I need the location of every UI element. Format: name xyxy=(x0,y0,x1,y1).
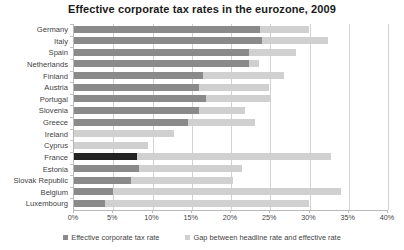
y-axis-label-estonia: Estonia xyxy=(0,164,68,176)
x-axis-label-30: 30% xyxy=(294,213,324,222)
bar-row xyxy=(74,140,388,152)
bar-gap-netherlands xyxy=(249,60,259,67)
bar-effective-slovenia xyxy=(74,107,199,114)
bar-row xyxy=(74,105,388,117)
y-axis-label-ireland: Ireland xyxy=(0,129,68,141)
bar-effective-belgium xyxy=(74,188,113,195)
x-axis-tick xyxy=(152,210,153,213)
plot-area xyxy=(73,24,388,210)
x-axis-tick xyxy=(191,210,192,213)
bar-effective-luxembourg xyxy=(74,200,105,207)
bar-effective-austria xyxy=(74,84,199,91)
bar-effective-france xyxy=(74,153,137,160)
x-axis-tick xyxy=(387,210,388,213)
bar-gap-ireland xyxy=(74,130,174,137)
gridline-40 xyxy=(388,24,389,210)
bar-row xyxy=(74,175,388,187)
y-axis-label-netherlands: Netherlands xyxy=(0,59,68,71)
bar-gap-slovak-republic xyxy=(131,177,233,184)
bar-row xyxy=(74,71,388,83)
bar-row xyxy=(74,24,388,36)
legend-swatch-icon xyxy=(63,235,68,240)
x-axis-tick xyxy=(348,210,349,213)
y-axis-label-cyprus: Cyprus xyxy=(0,140,68,152)
bar-gap-greece xyxy=(188,119,255,126)
bar-gap-spain xyxy=(249,49,296,56)
legend-item-2[interactable]: Gap between headline rate and effective … xyxy=(185,233,340,242)
bar-row xyxy=(74,152,388,164)
bar-effective-germany xyxy=(74,26,260,33)
bar-effective-slovak-republic xyxy=(74,177,131,184)
bar-row xyxy=(74,82,388,94)
bar-gap-italy xyxy=(262,37,327,44)
legend-swatch-icon xyxy=(185,235,190,240)
legend-item-1[interactable]: Effective corporate tax rate xyxy=(63,233,159,242)
x-axis-label-5: 5% xyxy=(97,213,127,222)
x-axis-tick xyxy=(112,210,113,213)
bar-effective-spain xyxy=(74,49,249,56)
legend-label: Gap between headline rate and effective … xyxy=(193,233,340,242)
y-axis-label-spain: Spain xyxy=(0,47,68,59)
x-axis-label-35: 35% xyxy=(333,213,363,222)
chart-container: Effective corporate tax rates in the eur… xyxy=(0,0,404,250)
bar-row xyxy=(74,117,388,129)
x-axis-tick xyxy=(269,210,270,213)
chart-legend: Effective corporate tax rateGap between … xyxy=(0,233,404,242)
y-axis-label-greece: Greece xyxy=(0,117,68,129)
x-axis-tick xyxy=(73,210,74,213)
y-axis-label-germany: Germany xyxy=(0,24,68,36)
y-axis-label-portugal: Portugal xyxy=(0,94,68,106)
bar-gap-slovenia xyxy=(199,107,245,114)
bar-row xyxy=(74,129,388,141)
y-axis-label-finland: Finland xyxy=(0,71,68,83)
bar-gap-portugal xyxy=(206,95,270,102)
bar-row xyxy=(74,94,388,106)
bar-gap-cyprus xyxy=(74,142,148,149)
x-axis-label-20: 20% xyxy=(215,213,245,222)
bar-gap-germany xyxy=(260,26,309,33)
bar-row xyxy=(74,198,388,210)
x-axis-label-0: 0% xyxy=(58,213,88,222)
bar-effective-netherlands xyxy=(74,60,249,67)
bar-row xyxy=(74,59,388,71)
x-axis-label-25: 25% xyxy=(254,213,284,222)
bar-gap-france xyxy=(137,153,332,160)
y-axis-label-slovenia: Slovenia xyxy=(0,105,68,117)
chart-title: Effective corporate tax rates in the eur… xyxy=(0,3,404,15)
bar-gap-belgium xyxy=(113,188,341,195)
bar-row xyxy=(74,164,388,176)
bar-gap-finland xyxy=(203,72,285,79)
bar-row xyxy=(74,47,388,59)
bar-effective-portugal xyxy=(74,95,206,102)
y-axis-label-austria: Austria xyxy=(0,82,68,94)
bar-row xyxy=(74,187,388,199)
y-axis-label-italy: Italy xyxy=(0,36,68,48)
bar-gap-estonia xyxy=(139,165,242,172)
bar-effective-italy xyxy=(74,37,262,44)
bar-row xyxy=(74,36,388,48)
y-axis-label-slovak-republic: Slovak Republic xyxy=(0,175,68,187)
bar-effective-estonia xyxy=(74,165,139,172)
x-axis-label-10: 10% xyxy=(137,213,167,222)
bar-gap-austria xyxy=(199,84,269,91)
y-axis-label-belgium: Belgium xyxy=(0,187,68,199)
y-axis-label-luxembourg: Luxembourg xyxy=(0,198,68,210)
legend-label: Effective corporate tax rate xyxy=(71,233,159,242)
x-axis-label-40: 40% xyxy=(372,213,402,222)
x-axis-label-15: 15% xyxy=(176,213,206,222)
bar-effective-finland xyxy=(74,72,203,79)
bar-effective-greece xyxy=(74,119,188,126)
x-axis-tick xyxy=(230,210,231,213)
y-axis-label-france: France xyxy=(0,152,68,164)
bar-gap-luxembourg xyxy=(105,200,309,207)
x-axis-tick xyxy=(309,210,310,213)
